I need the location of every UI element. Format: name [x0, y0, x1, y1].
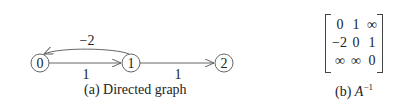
edge-label-0-1: 1 [83, 67, 90, 82]
edge-label-1-2: 1 [175, 67, 182, 82]
caption-superscript: −1 [363, 82, 373, 92]
edge-1-0 [44, 49, 129, 54]
node-label: 1 [128, 56, 135, 71]
inverse-matrix: 0 1 ∞ −2 0 1 ∞ ∞ 0 [325, 14, 383, 73]
left-bracket [325, 14, 331, 73]
graph-caption: (a) Directed graph [84, 82, 187, 98]
node-0: 0 [31, 54, 49, 72]
matrix-cell: ∞ [348, 52, 364, 70]
node-1: 1 [122, 54, 140, 72]
matrix-cell: ∞ [364, 16, 380, 34]
node-label: 0 [37, 56, 44, 71]
node-2: 2 [215, 54, 233, 72]
caption-prefix: (b) [335, 84, 355, 99]
matrix-caption: (b) A−1 [335, 82, 373, 100]
matrix-grid: 0 1 ∞ −2 0 1 ∞ ∞ 0 [332, 16, 380, 70]
matrix-cell: 1 [348, 16, 364, 34]
matrix-cell: −2 [332, 34, 348, 52]
matrix-cell: 0 [348, 34, 364, 52]
edge-label-1-0: −2 [80, 33, 95, 48]
matrix-cell: 0 [332, 16, 348, 34]
matrix-cell: 1 [364, 34, 380, 52]
matrix-cell: ∞ [332, 52, 348, 70]
node-label: 2 [221, 56, 228, 71]
matrix-cell: 0 [364, 52, 380, 70]
